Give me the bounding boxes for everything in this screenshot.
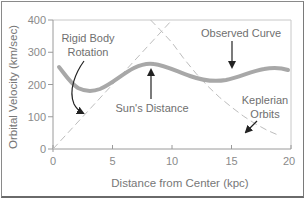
y-tick-labels: 0 100 200 300 400 bbox=[28, 14, 46, 155]
y-tick-200: 200 bbox=[28, 79, 46, 91]
rigid-body-label-line2: Rotation bbox=[68, 46, 109, 58]
annotation-sun-distance: Sun's Distance bbox=[115, 70, 188, 114]
x-axis-title: Distance from Center (kpc) bbox=[111, 177, 249, 189]
y-tick-100: 100 bbox=[28, 111, 46, 123]
x-tick-20: 20 bbox=[283, 155, 295, 167]
keplerian-arrow-icon bbox=[246, 121, 257, 132]
x-tick-15: 15 bbox=[225, 155, 237, 167]
y-tick-300: 300 bbox=[28, 46, 46, 58]
observed-curve bbox=[59, 64, 288, 91]
x-tick-5: 5 bbox=[109, 155, 115, 167]
x-tick-labels: 0 5 10 15 20 bbox=[50, 155, 295, 167]
y-axis-title: Orbital Velocity (km/sec) bbox=[7, 25, 19, 149]
y-ticks bbox=[48, 20, 53, 149]
keplerian-label-line2: Orbits bbox=[250, 108, 280, 120]
rigid-body-label-line1: Rigid Body bbox=[61, 32, 115, 44]
y-tick-400: 400 bbox=[28, 14, 46, 26]
x-tick-0: 0 bbox=[50, 155, 56, 167]
rotation-curve-chart: 0 100 200 300 400 0 5 10 15 20 Distance … bbox=[0, 0, 307, 203]
x-tick-10: 10 bbox=[166, 155, 178, 167]
sun-distance-label: Sun's Distance bbox=[115, 102, 188, 114]
observed-curve-label: Observed Curve bbox=[201, 27, 281, 39]
annotation-keplerian: Keplerian Orbits bbox=[242, 94, 288, 132]
y-tick-0: 0 bbox=[40, 143, 46, 155]
keplerian-label-line1: Keplerian bbox=[242, 94, 288, 106]
annotation-observed-curve: Observed Curve bbox=[201, 27, 281, 67]
annotation-rigid-body: Rigid Body Rotation bbox=[61, 32, 115, 113]
